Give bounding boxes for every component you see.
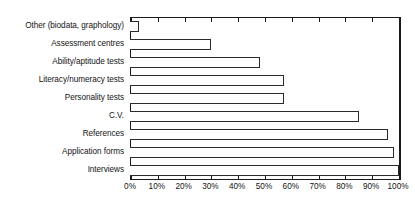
category-label-row: C.V. [0,106,128,124]
x-tick-label: 100% [388,182,409,192]
bar-row [131,90,399,108]
category-label-row: Personality tests [0,89,128,107]
category-label: C.V. [109,111,124,120]
bar-row [131,107,399,125]
bar-row [131,161,399,179]
bar-row [131,18,399,36]
category-label: Assessment centres [51,39,124,48]
axis-tick [399,18,400,22]
x-tick-label: 20% [175,182,191,192]
category-label-row: Literacy/numeracy tests [0,71,128,89]
category-label-row: Ability/aptitude tests [0,53,128,71]
category-label-row: Application forms [0,142,128,160]
category-label: Other (biodata, graphology) [25,21,124,30]
x-tick-label: 60% [283,182,299,192]
bar-row [131,36,399,54]
bar [130,39,211,50]
category-axis-labels: Other (biodata, graphology)Assessment ce… [0,17,128,178]
bar-row [131,143,399,161]
bar-row [131,125,399,143]
x-tick-label: 0% [124,182,136,192]
x-tick-label: 80% [336,182,352,192]
category-label-row: Other (biodata, graphology) [0,17,128,35]
axis-tick [399,175,400,179]
x-tick-label: 10% [149,182,165,192]
category-label: Literacy/numeracy tests [39,75,124,84]
category-label: Application forms [62,147,124,156]
x-axis-tick-labels: 0%10%20%30%40%50%60%70%80%90%100% [130,182,400,196]
x-tick-label: 90% [363,182,379,192]
category-label: Personality tests [65,93,124,102]
category-label: Ability/aptitude tests [52,57,124,66]
bar-row [131,72,399,90]
bar [130,129,388,140]
category-label: References [83,129,124,138]
bar [130,57,260,68]
x-tick-label: 50% [256,182,272,192]
bar-row [131,54,399,72]
bar [130,165,399,176]
horizontal-bar-chart: Other (biodata, graphology)Assessment ce… [0,0,415,206]
bar [130,93,284,104]
bar [130,111,359,122]
category-label-row: References [0,124,128,142]
category-label-row: Assessment centres [0,35,128,53]
x-tick-label: 30% [202,182,218,192]
category-label: Interviews [88,165,124,174]
x-tick-label: 70% [309,182,325,192]
bar [130,21,139,32]
category-label-row: Interviews [0,160,128,178]
plot-area [130,17,401,180]
bar-series [131,18,399,179]
x-tick-label: 40% [229,182,245,192]
bar [130,147,394,158]
bar [130,75,284,86]
